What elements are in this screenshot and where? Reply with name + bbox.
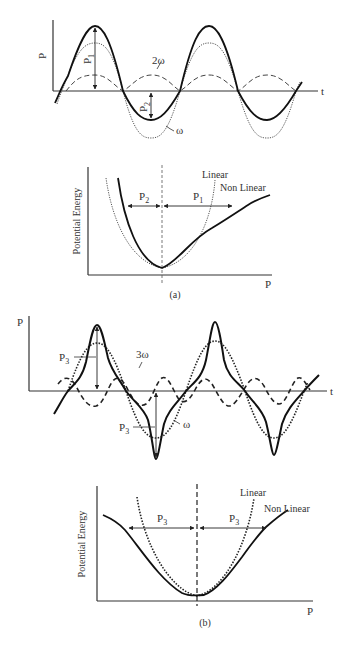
p3-negative-label: P3: [119, 421, 129, 436]
fundamental-label: ω: [183, 418, 190, 430]
fundamental-label: ω: [176, 124, 183, 136]
p3-right-span-label: P3: [229, 512, 239, 527]
p2-label: P2: [137, 102, 152, 112]
panel-b-caption: (b): [199, 617, 211, 629]
p1-label: P1: [81, 54, 96, 64]
x-axis-label: t: [321, 85, 324, 97]
y-axis-label: Potential Energy: [76, 511, 87, 578]
panel-a-caption: (a): [169, 289, 180, 301]
y-axis-label: Potential Energy: [71, 188, 82, 255]
p3-left-span-label: P3: [157, 512, 167, 527]
x-axis-label: P: [307, 605, 313, 617]
harmonic-label: 3ω: [136, 348, 149, 360]
panel-b-energy-plot: Potential Energy P P3 P3 Linear Non Line…: [76, 484, 313, 617]
panel-a-wave-plot: P t P1 P2 2ω ω: [36, 20, 324, 138]
p2-span-label: P2: [139, 190, 149, 205]
figure: P t P1 P2 2ω ω Potential Energy P P2 P1: [0, 0, 350, 646]
fundamental-leader: [175, 421, 180, 424]
y-axis-label: P: [17, 316, 23, 328]
harmonic-curve: [58, 378, 310, 407]
p1-span-label: P1: [193, 190, 203, 205]
harmonic-leader: [139, 362, 142, 368]
x-axis-label: t: [330, 385, 333, 397]
linear-label: Linear: [202, 169, 229, 180]
nonlinear-curve: [103, 510, 288, 596]
x-axis-label: P: [265, 278, 271, 290]
nonlinear-label: Non Linear: [264, 503, 310, 514]
combined-curve: [55, 26, 302, 120]
linear-curve: [137, 497, 254, 596]
nonlinear-label: Non Linear: [220, 182, 266, 193]
linear-label: Linear: [240, 487, 267, 498]
panel-a-energy-plot: Potential Energy P P2 P1 Linear Non Line…: [71, 165, 272, 290]
harmonic-label: 2ω: [152, 54, 165, 66]
p3-positive-label: P3: [59, 351, 69, 366]
panel-b-wave-plot: P t P3 P3 3ω ω: [17, 316, 333, 459]
fundamental-leader: [166, 126, 174, 131]
y-axis-label: P: [36, 53, 48, 59]
